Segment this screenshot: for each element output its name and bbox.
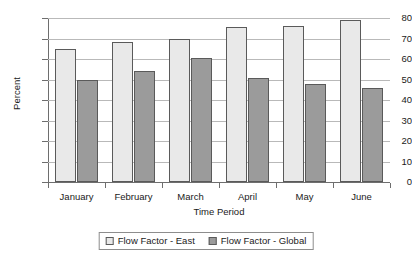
x-axis-tick <box>48 183 49 188</box>
bar <box>226 27 247 182</box>
x-axis-tick-label: March <box>162 191 219 202</box>
x-axis-title: Time Period <box>48 206 390 217</box>
y-axis-title: Percent <box>11 54 22 134</box>
x-axis-tick <box>162 183 163 188</box>
x-axis-tick-label: May <box>276 191 333 202</box>
legend-swatch <box>209 237 217 245</box>
bar <box>340 20 361 182</box>
x-axis-tick <box>105 183 106 188</box>
bar <box>305 84 326 182</box>
bar <box>77 80 98 183</box>
bars-layer <box>48 18 390 182</box>
x-axis-tick-label: January <box>48 191 105 202</box>
legend-label: Flow Factor - East <box>118 235 195 246</box>
x-axis-tick <box>333 183 334 188</box>
chart-legend: Flow Factor - EastFlow Factor - Global <box>99 232 314 250</box>
legend-swatch <box>106 237 114 245</box>
x-axis-tick-label: June <box>333 191 390 202</box>
bar <box>112 42 133 182</box>
x-axis-tick <box>390 183 391 188</box>
bar <box>191 58 212 182</box>
plot-area <box>48 18 390 182</box>
bar <box>248 78 269 182</box>
legend-entry: Flow Factor - Global <box>209 235 307 246</box>
bar <box>55 49 76 182</box>
legend-label: Flow Factor - Global <box>221 235 307 246</box>
bar <box>362 88 383 182</box>
bar <box>169 39 190 183</box>
x-axis-tick <box>276 183 277 188</box>
x-axis-tick-label: April <box>219 191 276 202</box>
bar-chart: Percent 01020304050607080 JanuaryFebruar… <box>0 0 412 263</box>
x-axis-tick <box>219 183 220 188</box>
bar <box>134 71 155 182</box>
bar <box>283 26 304 182</box>
legend-entry: Flow Factor - East <box>106 235 195 246</box>
x-axis-tick-label: February <box>105 191 162 202</box>
